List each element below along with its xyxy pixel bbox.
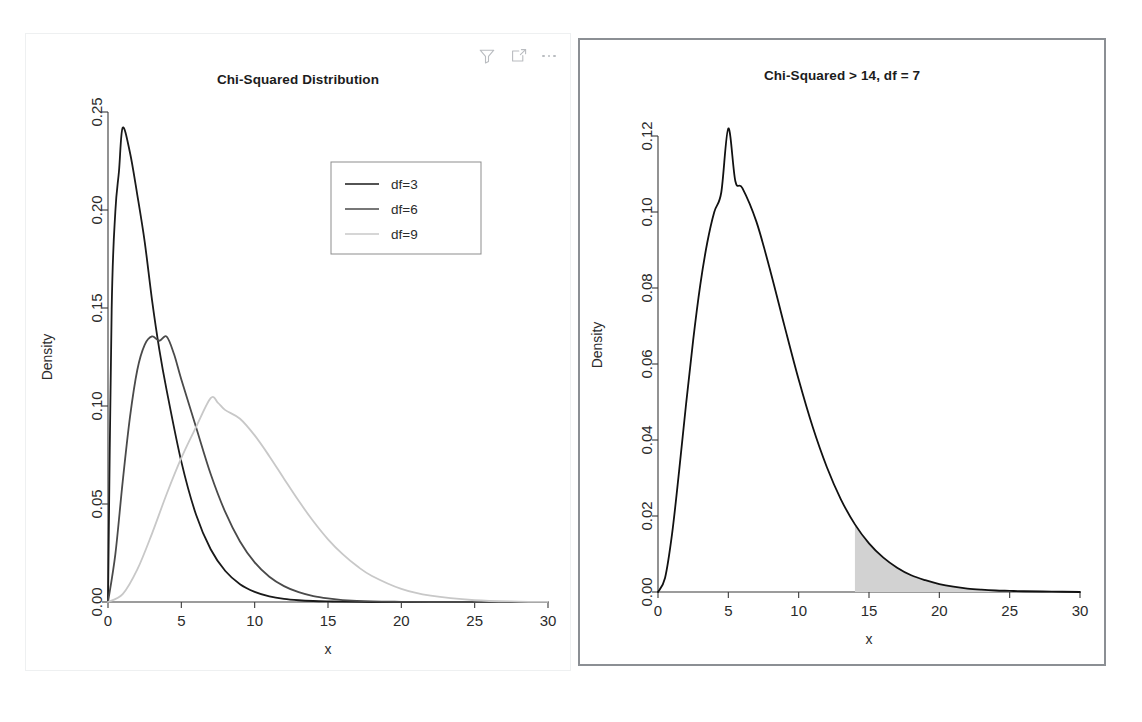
svg-text:10: 10 (246, 612, 263, 629)
svg-text:0.20: 0.20 (88, 195, 105, 224)
svg-text:0.06: 0.06 (638, 349, 655, 378)
svg-text:5: 5 (724, 602, 732, 619)
svg-text:20: 20 (393, 612, 410, 629)
svg-text:25: 25 (1001, 602, 1018, 619)
svg-text:df=6: df=6 (391, 202, 418, 217)
svg-text:0.25: 0.25 (88, 97, 105, 126)
svg-text:0.00: 0.00 (638, 577, 655, 606)
expand-icon[interactable] (510, 47, 528, 65)
svg-text:0.08: 0.08 (638, 273, 655, 302)
more-icon[interactable] (542, 47, 556, 65)
svg-text:0: 0 (654, 602, 662, 619)
chart-toolbar (478, 47, 556, 65)
svg-text:30: 30 (1072, 602, 1089, 619)
svg-text:Density: Density (39, 334, 55, 381)
svg-text:0.10: 0.10 (638, 197, 655, 226)
svg-text:20: 20 (931, 602, 948, 619)
svg-text:x: x (866, 631, 873, 647)
more-dot (553, 55, 556, 58)
filter-icon[interactable] (478, 47, 496, 65)
svg-text:0.15: 0.15 (88, 293, 105, 322)
right-chart-panel: Chi-Squared > 14, df = 7 0.000.020.040.0… (578, 38, 1106, 666)
svg-text:Density: Density (589, 322, 605, 369)
svg-text:30: 30 (540, 612, 557, 629)
svg-text:25: 25 (466, 612, 483, 629)
svg-text:0.00: 0.00 (88, 587, 105, 616)
svg-text:5: 5 (177, 612, 185, 629)
svg-text:0.10: 0.10 (88, 391, 105, 420)
svg-text:0.05: 0.05 (88, 489, 105, 518)
svg-text:df=9: df=9 (391, 227, 418, 242)
right-chart-plot: 0.000.020.040.060.080.100.12051015202530… (580, 40, 1104, 664)
svg-text:x: x (325, 641, 332, 657)
svg-text:0.04: 0.04 (638, 425, 655, 454)
more-dot (542, 55, 545, 58)
svg-text:0: 0 (104, 612, 112, 629)
svg-text:df=3: df=3 (391, 177, 418, 192)
more-dot (548, 55, 551, 58)
svg-text:0.12: 0.12 (638, 121, 655, 150)
svg-text:0.02: 0.02 (638, 501, 655, 530)
svg-text:15: 15 (861, 602, 878, 619)
svg-text:10: 10 (790, 602, 807, 619)
left-chart-plot: 0.000.050.100.150.200.25051015202530xDen… (26, 34, 572, 672)
left-chart-panel: Chi-Squared Distribution 0.000.050.100.1… (25, 33, 571, 671)
svg-text:15: 15 (320, 612, 337, 629)
